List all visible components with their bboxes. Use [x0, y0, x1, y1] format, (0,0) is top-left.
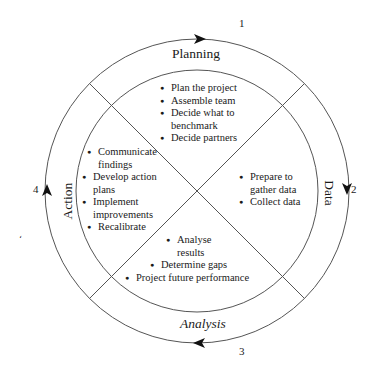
list-item: Project future performance	[125, 272, 275, 285]
list-item: Decide what to benchmark	[160, 107, 251, 132]
list-item: Analyse results	[166, 234, 222, 259]
stray-mark: ‘	[19, 235, 22, 245]
list-item: Plan the project	[160, 82, 280, 95]
step-number-4: 4	[33, 183, 39, 195]
step-number-1: 1	[239, 17, 245, 29]
step-number-2: 2	[351, 183, 357, 195]
step-number-3: 3	[239, 345, 245, 357]
phase-label-analysis: Analysis	[180, 316, 226, 332]
list-item: Collect data	[239, 196, 309, 209]
data-items: Prepare to gather data Collect data	[239, 171, 309, 209]
list-item: Implement improvements	[82, 196, 162, 221]
list-item: Decide partners	[160, 132, 280, 145]
list-item: Prepare to gather data	[239, 171, 309, 196]
phase-label-planning: Planning	[172, 46, 220, 62]
list-item: Develop action plans	[82, 171, 162, 196]
analysis-items: Analyse results Determine gaps Project f…	[125, 234, 275, 284]
list-item: Communicate findings	[87, 146, 162, 171]
phase-label-data: Data	[321, 180, 337, 205]
list-item: Recalibrate	[87, 221, 162, 234]
list-item: Assemble team	[160, 95, 280, 108]
arrow-icon-left-up	[42, 184, 52, 196]
planning-items: Plan the project Assemble team Decide wh…	[160, 82, 280, 145]
list-item: Determine gaps	[150, 259, 275, 272]
action-items: Communicate findings Develop action plan…	[82, 146, 162, 234]
phase-label-action: Action	[60, 183, 76, 220]
